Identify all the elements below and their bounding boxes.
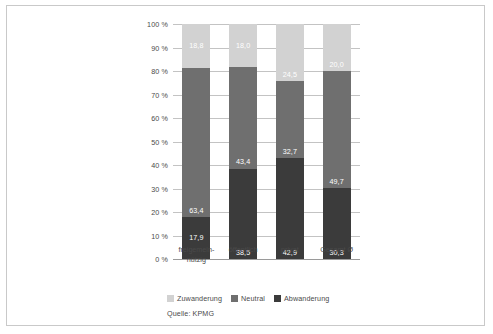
bar-segment-zuwanderung: 24,5: [276, 24, 304, 82]
chart-legend: ZuwanderungNeutralAbwanderung: [167, 294, 329, 303]
stacked-bar: 18,043,438,5: [229, 24, 257, 259]
x-axis-label-line: Gesamt Ø: [305, 245, 369, 255]
legend-swatch-icon: [231, 295, 238, 302]
y-tick-label: 20 %: [151, 208, 168, 217]
stacked-bar: 24,532,742,9: [276, 24, 304, 259]
bar-segment-zuwanderung: 20,0: [323, 24, 351, 71]
figure-border: 0 %10 %20 %30 %40 %50 %60 %70 %80 %90 %1…: [6, 5, 485, 326]
y-tick-label: 40 %: [151, 161, 168, 170]
y-tick-label: 80 %: [151, 67, 168, 76]
bar-value-label: 24,5: [283, 71, 297, 78]
bar-segment-neutral: 43,4: [229, 67, 257, 169]
stacked-bar: 18,863,417,9: [182, 24, 210, 259]
y-tick-label: 70 %: [151, 90, 168, 99]
stacked-bar: 20,049,730,3: [323, 24, 351, 259]
source-note: Quelle: KPMG: [167, 309, 214, 318]
plot-area: 0 %10 %20 %30 %40 %50 %60 %70 %80 %90 %1…: [173, 24, 360, 259]
legend-item: Neutral: [231, 294, 265, 303]
bar-segment-neutral: 63,4: [182, 68, 210, 217]
bar-segment-neutral: 49,7: [323, 71, 351, 188]
legend-item: Abwanderung: [274, 294, 329, 303]
y-tick-label: 60 %: [151, 114, 168, 123]
legend-label: Neutral: [241, 294, 265, 303]
bar-segment-zuwanderung: 18,0: [229, 24, 257, 66]
bar-value-label: 17,9: [189, 234, 203, 241]
bar-value-label: 43,4: [236, 158, 250, 165]
legend-swatch-icon: [274, 295, 281, 302]
legend-label: Zuwanderung: [177, 294, 222, 303]
bar-segment-neutral: 32,7: [276, 81, 304, 158]
bar-segment-abwanderung: 42,9: [276, 158, 304, 259]
y-tick-label: 10 %: [151, 231, 168, 240]
bar-value-label: 32,7: [283, 148, 297, 155]
y-tick-label: 100 %: [147, 20, 168, 29]
bar-value-label: 18,0: [236, 42, 250, 49]
bar-value-label: 18,8: [189, 42, 203, 49]
x-axis-label-line: nützig: [164, 255, 228, 265]
legend-label: Abwanderung: [284, 294, 329, 303]
y-tick-label: 90 %: [151, 43, 168, 52]
legend-swatch-icon: [167, 295, 174, 302]
y-tick-label: 30 %: [151, 184, 168, 193]
bar-segment-zuwanderung: 18,8: [182, 24, 210, 68]
bar-value-label: 63,4: [189, 207, 203, 214]
chart-figure: 0 %10 %20 %30 %40 %50 %60 %70 %80 %90 %1…: [0, 0, 493, 334]
legend-item: Zuwanderung: [167, 294, 222, 303]
bar-value-label: 49,7: [329, 178, 343, 185]
x-axis-label: Gesamt Ø: [305, 245, 369, 255]
bar-value-label: 20,0: [329, 61, 343, 68]
y-tick-label: 50 %: [151, 137, 168, 146]
